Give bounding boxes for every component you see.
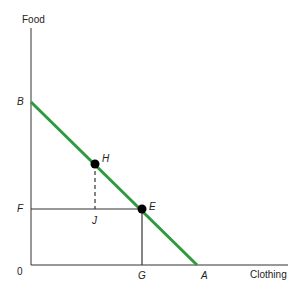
label-a: A bbox=[200, 270, 208, 281]
label-j: J bbox=[91, 215, 98, 226]
origin-label: 0 bbox=[17, 266, 23, 277]
budget-line bbox=[31, 102, 197, 265]
label-b: B bbox=[17, 96, 24, 107]
y-axis-label: Food bbox=[22, 14, 45, 25]
budget-line-diagram: Food Clothing 0 B F H E J G A bbox=[0, 0, 300, 297]
x-axis-label: Clothing bbox=[250, 269, 287, 280]
label-f: F bbox=[17, 203, 24, 214]
point-e bbox=[138, 205, 147, 214]
label-g: G bbox=[138, 270, 146, 281]
label-e: E bbox=[149, 201, 156, 212]
point-h bbox=[91, 160, 100, 169]
label-h: H bbox=[102, 153, 110, 164]
